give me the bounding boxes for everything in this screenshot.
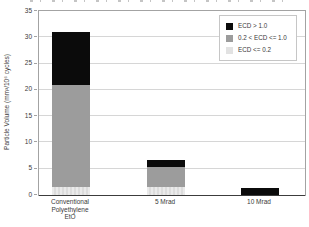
legend: ECD > 1.00.2 < ECD <= 1.0ECD <= 0.2	[219, 15, 297, 61]
cropped-text-fragment	[30, 0, 294, 2]
bar-segment	[52, 85, 90, 188]
y-tick-label: 15	[18, 112, 32, 119]
y-tick-mark	[34, 89, 37, 90]
y-tick-label: 10	[18, 138, 32, 145]
x-axis-line	[39, 195, 305, 196]
x-category-label: Conventional Polyethylene EtO	[20, 198, 120, 221]
bar-segment	[147, 167, 185, 188]
y-tick-label: 35	[18, 7, 32, 14]
y-tick-label: 30	[18, 33, 32, 40]
legend-label: ECD > 1.0	[238, 22, 267, 30]
y-tick-mark	[34, 141, 37, 142]
y-tick-label: 0	[18, 191, 32, 198]
x-category-label: 5 Mrad	[115, 198, 215, 206]
chart-canvas: Particle Volume (mm³/10⁶ cycles) 0510152…	[0, 0, 309, 227]
y-tick-mark	[34, 115, 37, 116]
y-tick-mark	[34, 168, 37, 169]
y-tick-label: 20	[18, 85, 32, 92]
bar-3	[241, 188, 279, 195]
legend-swatch-icon	[226, 47, 233, 54]
bar-1	[52, 32, 90, 195]
legend-item: ECD > 1.0	[226, 22, 296, 31]
y-tick-mark	[34, 63, 37, 64]
bar-segment	[52, 32, 90, 85]
legend-swatch-icon	[226, 23, 233, 30]
y-tick-mark	[34, 194, 37, 195]
legend-label: ECD <= 0.2	[238, 46, 271, 54]
bar-segment	[241, 188, 279, 195]
y-tick-mark	[34, 10, 37, 11]
legend-label: 0.2 < ECD <= 1.0	[238, 34, 287, 42]
x-category-label: 10 Mrad	[209, 198, 309, 206]
bar-segment	[52, 187, 90, 195]
bar-segment	[147, 187, 185, 195]
y-tick-label: 5	[18, 164, 32, 171]
y-axis-title: Particle Volume (mm³/10⁶ cycles)	[2, 7, 12, 197]
legend-swatch-icon	[226, 35, 233, 42]
legend-item: ECD <= 0.2	[226, 46, 296, 55]
legend-item: 0.2 < ECD <= 1.0	[226, 34, 296, 43]
bar-segment	[147, 160, 185, 167]
bar-2	[147, 160, 185, 195]
y-tick-label: 25	[18, 59, 32, 66]
y-tick-mark	[34, 36, 37, 37]
